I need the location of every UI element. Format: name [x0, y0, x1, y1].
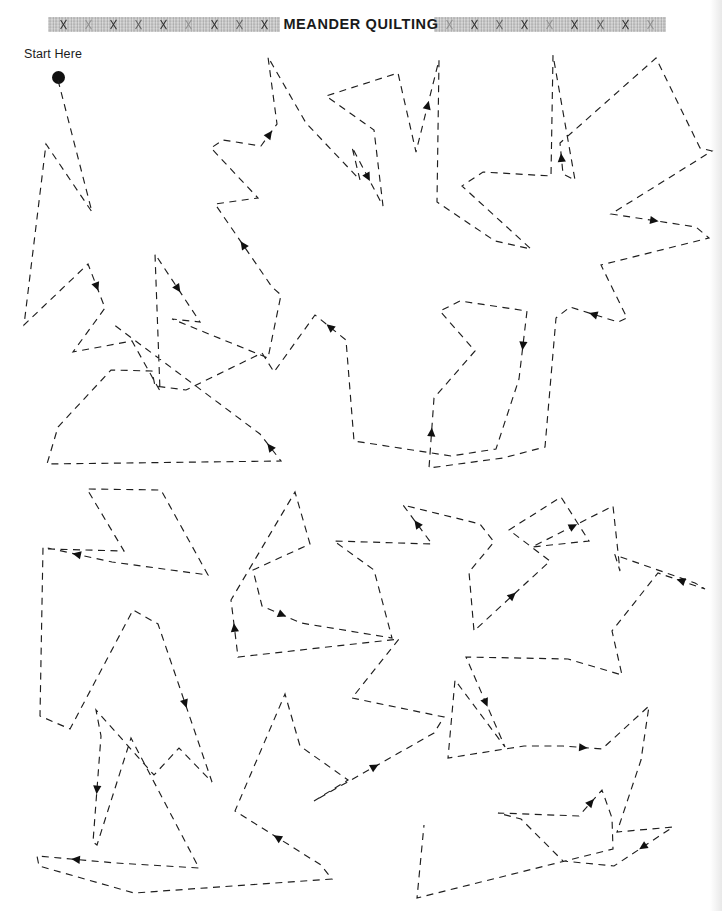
meander-stitch-diagram [0, 0, 722, 911]
direction-arrow-icon [91, 281, 102, 292]
direction-arrow-icon [369, 761, 381, 772]
direction-arrow-icon [423, 100, 433, 110]
direction-arrow-icon [362, 172, 373, 183]
meander-quilting-page: MEANDER QUILTING Start Here [0, 0, 722, 911]
direction-arrow-icon [264, 441, 276, 453]
direction-arrow-icon [650, 216, 660, 225]
direction-arrow-icon [172, 283, 184, 295]
direction-arrow-icon [271, 832, 283, 844]
direction-arrow-icon [579, 743, 588, 752]
direction-arrow-icon [411, 518, 423, 530]
direction-arrow-group [71, 100, 686, 864]
direction-arrow-icon [277, 609, 288, 620]
direction-arrow-icon [180, 698, 191, 709]
direction-arrow-icon [588, 309, 599, 319]
direction-arrow-icon [324, 321, 336, 333]
direction-arrow-icon [557, 153, 566, 162]
direction-arrow-icon [637, 841, 649, 853]
stitch-path [37, 489, 705, 898]
direction-arrow-icon [93, 785, 102, 794]
stitch-path-group [24, 55, 712, 898]
direction-arrow-icon [71, 855, 80, 864]
direction-arrow-icon [427, 428, 436, 437]
direction-arrow-icon [72, 549, 82, 559]
direction-arrow-icon [675, 575, 686, 586]
stitch-path [24, 55, 712, 468]
direction-arrow-icon [237, 239, 249, 251]
direction-arrow-icon [480, 697, 491, 708]
direction-arrow-icon [518, 341, 527, 350]
direction-arrow-icon [264, 128, 276, 140]
direction-arrow-icon [230, 623, 239, 633]
